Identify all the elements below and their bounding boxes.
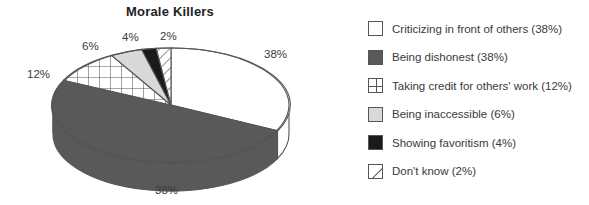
pie-label-dont-know: 2% <box>160 30 177 42</box>
legend-item-criticizing: Criticizing in front of others (38%) <box>368 16 583 41</box>
legend-swatch-taking-credit-icon <box>368 78 383 93</box>
legend-swatch-favoritism-icon <box>368 135 383 150</box>
legend-swatch-inaccessible-icon <box>368 107 383 122</box>
pie-label-dishonest: 38% <box>155 184 178 196</box>
pie-label-criticizing: 38% <box>264 48 287 60</box>
legend-item-dont-know: Don't know (2%) <box>368 159 583 184</box>
pie-chart-panel: Morale Killers <box>0 0 350 205</box>
pie-label-inaccessible: 6% <box>82 40 99 52</box>
chart-page: Morale Killers <box>0 0 589 205</box>
legend-label-dishonest: Being dishonest (38%) <box>392 50 508 64</box>
pie-label-taking-credit: 12% <box>27 68 50 80</box>
pie-label-favoritism: 4% <box>122 31 139 43</box>
legend-label-criticizing: Criticizing in front of others (38%) <box>392 22 562 36</box>
legend-item-favoritism: Showing favoritism (4%) <box>368 130 583 155</box>
legend-item-taking-credit: Taking credit for others' work (12%) <box>368 73 583 98</box>
legend-swatch-criticizing-icon <box>368 21 383 36</box>
legend-label-inaccessible: Being inaccessible (6%) <box>392 107 515 121</box>
legend-swatch-dishonest-icon <box>368 50 383 65</box>
legend-label-taking-credit: Taking credit for others' work (12%) <box>392 79 572 93</box>
legend-label-dont-know: Don't know (2%) <box>392 164 476 178</box>
chart-legend: Criticizing in front of others (38%) Bei… <box>368 16 583 187</box>
legend-item-dishonest: Being dishonest (38%) <box>368 45 583 70</box>
legend-label-favoritism: Showing favoritism (4%) <box>392 136 516 150</box>
legend-swatch-dont-know-icon <box>368 164 383 179</box>
legend-item-inaccessible: Being inaccessible (6%) <box>368 102 583 127</box>
